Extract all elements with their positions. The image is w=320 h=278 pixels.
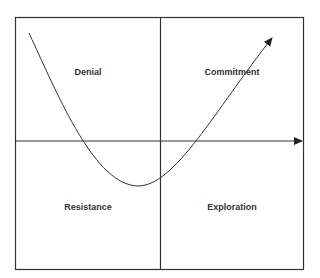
quadrant-label-resistance: Resistance [64, 202, 112, 212]
quadrant-label-commitment: Commitment [204, 67, 259, 77]
quadrant-label-denial: Denial [74, 67, 101, 77]
change-curve-diagram [0, 0, 320, 278]
quadrant-label-exploration: Exploration [207, 202, 257, 212]
change-curve-arrow [29, 33, 272, 186]
diagram-frame [16, 18, 304, 270]
